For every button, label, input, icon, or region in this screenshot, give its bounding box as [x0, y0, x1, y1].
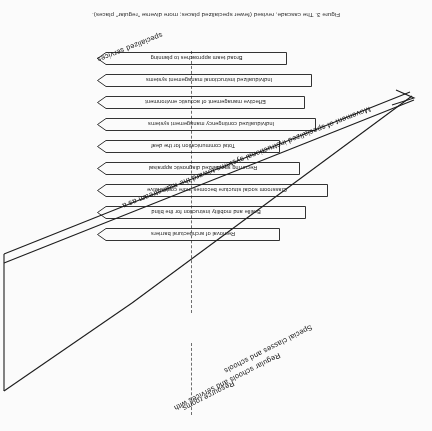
- figure-caption: Figure 3. The cascade, revised (fewer sp…: [6, 11, 426, 19]
- level-label: Removal of architectural barriers: [106, 228, 280, 241]
- level-row-3[interactable]: Effective management of acoustic environ…: [97, 96, 305, 109]
- level-label: Individualized instructional management …: [106, 74, 312, 87]
- level-list: Broad team approaches to planning Indivi…: [0, 0, 432, 431]
- level-row-4[interactable]: Individualized contingency management sy…: [97, 118, 316, 131]
- level-label: Braille and mobility instruction for the…: [106, 206, 306, 219]
- level-row-2[interactable]: Individualized instructional management …: [97, 74, 312, 87]
- level-label: Broad team approaches to planning: [106, 52, 287, 65]
- level-label: Individualized contingency management sy…: [106, 118, 316, 131]
- level-row-7[interactable]: Classroom social structure becomes more …: [97, 184, 328, 197]
- level-label: Effective management of acoustic environ…: [106, 96, 305, 109]
- level-row-9[interactable]: Removal of architectural barriers: [97, 228, 280, 241]
- cascade-figure: Broad team approaches to planning Indivi…: [0, 0, 432, 431]
